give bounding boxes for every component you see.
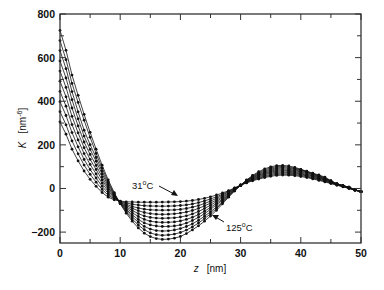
x-tick-label: 0: [57, 247, 63, 259]
annotation-125C: 125oC: [212, 215, 253, 233]
data-point: [71, 90, 74, 93]
data-point: [83, 158, 86, 161]
data-point: [137, 209, 140, 212]
data-point: [95, 148, 98, 151]
data-point: [197, 210, 200, 213]
data-point: [155, 225, 158, 228]
data-point: [185, 229, 188, 232]
x-axis-var: z: [193, 263, 199, 274]
data-point: [336, 183, 339, 186]
x-tick-label: 40: [295, 247, 307, 259]
data-point: [137, 215, 140, 218]
data-point: [77, 152, 80, 155]
data-point: [203, 207, 206, 210]
data-point: [239, 184, 242, 187]
data-point: [203, 220, 206, 223]
data-point: [137, 227, 140, 230]
data-point: [173, 216, 176, 219]
data-point: [95, 164, 98, 167]
data-point: [269, 165, 272, 168]
data-point: [161, 213, 164, 216]
data-point: [233, 190, 236, 193]
data-point: [107, 178, 110, 181]
data-point: [143, 215, 146, 218]
data-point: [143, 211, 146, 214]
data-point: [71, 123, 74, 126]
data-point: [89, 143, 92, 146]
data-point: [203, 202, 206, 205]
data-point: [95, 168, 98, 171]
data-point: [209, 208, 212, 211]
data-point: [95, 181, 98, 184]
data-point: [155, 221, 158, 224]
data-point: [167, 221, 170, 224]
data-point: [89, 173, 92, 176]
data-point: [161, 201, 164, 204]
data-point: [209, 215, 212, 218]
data-point: [179, 212, 182, 215]
data-point: [65, 133, 68, 136]
data-point: [65, 105, 68, 108]
data-point: [161, 238, 164, 241]
data-point: [185, 222, 188, 225]
data-point: [143, 204, 146, 207]
data-point: [197, 207, 200, 210]
data-point: [179, 227, 182, 230]
data-point: [155, 217, 158, 220]
data-point: [161, 217, 164, 220]
data-point: [179, 216, 182, 219]
data-point: [191, 226, 194, 229]
data-point: [119, 202, 122, 205]
data-point: [167, 209, 170, 212]
data-point: [77, 131, 80, 134]
data-point: [137, 221, 140, 224]
data-point: [149, 224, 152, 227]
data-point: [197, 224, 200, 227]
chart: 01020304050−2000200400600800 z[nm] K[nm-…: [0, 0, 384, 290]
data-point: [221, 202, 224, 205]
data-point: [203, 205, 206, 208]
data-point: [65, 114, 68, 117]
data-point: [71, 140, 74, 143]
data-point: [203, 212, 206, 215]
data-point: [77, 160, 80, 163]
data-point: [167, 225, 170, 228]
data-point: [113, 191, 116, 194]
data-point: [161, 225, 164, 228]
data-point: [89, 168, 92, 171]
data-point: [65, 95, 68, 98]
data-point: [197, 216, 200, 219]
data-point: [185, 207, 188, 210]
data-point: [77, 101, 80, 104]
data-point: [318, 174, 321, 177]
y-tick-label: 400: [37, 95, 55, 107]
data-point: [173, 225, 176, 228]
data-point: [83, 152, 86, 155]
data-point: [71, 98, 74, 101]
curve-T2: [60, 112, 361, 207]
data-point: [89, 153, 92, 156]
data-point: [287, 165, 290, 168]
data-point: [65, 86, 68, 89]
x-tick-label: 10: [114, 247, 126, 259]
arrowhead-icon: [212, 215, 219, 220]
data-point: [311, 172, 314, 175]
data-point: [191, 199, 194, 202]
data-point: [149, 208, 152, 211]
data-point: [89, 163, 92, 166]
data-point: [65, 58, 68, 61]
y-tick-label: 200: [37, 139, 55, 151]
data-point: [203, 200, 206, 203]
data-point: [149, 232, 152, 235]
data-point: [185, 214, 188, 217]
data-point: [155, 229, 158, 232]
data-point: [65, 123, 68, 126]
data-point: [191, 219, 194, 222]
data-point: [161, 221, 164, 224]
data-point: [305, 170, 308, 173]
data-point: [167, 238, 170, 241]
data-point: [257, 170, 260, 173]
data-point: [203, 197, 206, 200]
data-point: [167, 229, 170, 232]
data-point: [143, 228, 146, 231]
